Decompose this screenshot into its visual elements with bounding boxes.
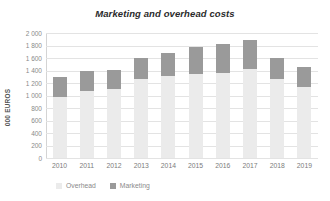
x-axis-tick-label: 2019 (284, 162, 324, 169)
legend-label: Marketing (120, 182, 150, 189)
legend-item[interactable]: Overhead (56, 182, 96, 189)
x-axis-tick-labels: 2010201120122013201420152016201720182019 (0, 0, 330, 201)
legend-swatch-icon (110, 183, 116, 189)
legend-label: Overhead (66, 182, 96, 189)
legend-item[interactable]: Marketing (110, 182, 150, 189)
chart-legend: OverheadMarketing (46, 182, 318, 189)
legend-swatch-icon (56, 183, 62, 189)
chart-container: Marketing and overhead costs 000 EUROS 0… (0, 0, 330, 201)
